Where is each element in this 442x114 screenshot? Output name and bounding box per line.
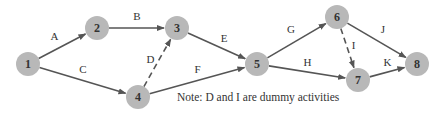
node-7: 7 [346,68,370,92]
edge-label: B [133,10,140,22]
node-4: 4 [126,85,150,109]
node-5: 5 [245,52,269,76]
edge-label: G [287,23,295,35]
edge-line [39,34,86,58]
edge-line [370,67,405,76]
edge-i: I [341,28,356,67]
edge-line [347,23,405,57]
edge-label: F [194,63,200,75]
node-label: 6 [334,10,340,24]
node-2: 2 [85,16,109,40]
edge-label: I [352,39,356,51]
node-label: 4 [135,90,141,104]
edge-label: H [304,56,312,68]
edge-label: K [384,56,392,68]
dummy-activities-note: Note: D and I are dummy activities [177,91,339,103]
node-1: 1 [16,52,40,76]
node-8: 8 [405,52,429,76]
edge-d: D [144,39,171,86]
node-3: 3 [165,16,189,40]
edge-label: J [381,23,386,35]
node-label: 7 [355,73,361,87]
edge-j: J [347,23,405,58]
edge-label: A [51,30,59,42]
edge-label: C [79,63,86,75]
node-6: 6 [325,5,349,29]
edge-label: D [147,53,155,65]
edge-line [267,24,325,58]
edge-k: K [370,56,405,77]
edge-f: F [150,63,245,94]
edge-h: H [269,56,345,78]
edge-line [188,33,245,59]
node-label: 1 [25,57,31,71]
node-label: 2 [94,21,100,35]
node-label: 5 [254,57,260,71]
edge-a: A [39,30,86,58]
edge-e: E [188,32,245,59]
node-label: 8 [414,57,420,71]
edge-label: E [221,32,228,44]
edge-g: G [267,23,325,58]
node-label: 3 [174,21,180,35]
edge-c: C [39,63,125,94]
edge-b: B [109,10,164,28]
